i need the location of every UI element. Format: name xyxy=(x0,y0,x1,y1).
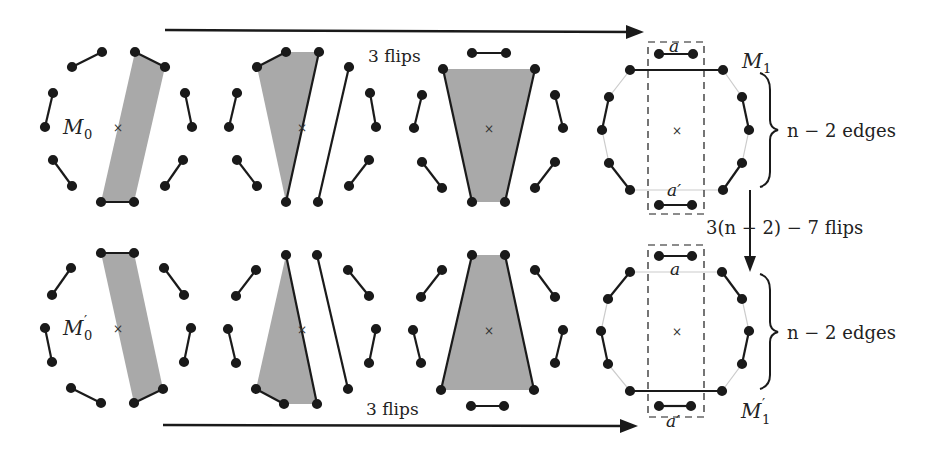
center-cross-icon: × xyxy=(484,122,494,136)
bottom-brace xyxy=(760,274,778,389)
flip-sequence-diagram: 3 flips × M 0 × xyxy=(0,0,945,455)
top-arrowhead-icon xyxy=(626,25,644,39)
shaded-quadrilateral xyxy=(101,253,163,403)
bottom-arrowhead-icon xyxy=(620,419,638,433)
top-brace xyxy=(760,73,778,187)
center-cross-icon: × xyxy=(297,121,307,135)
down-arrowhead-icon xyxy=(744,256,756,272)
center-cross-icon: × xyxy=(672,325,682,339)
edge-label-a-top: a xyxy=(669,36,679,56)
edge-label-a-prime-bottom: a′ xyxy=(666,411,680,431)
bottom-flip-arrow xyxy=(163,425,630,426)
m0-subscript: 0 xyxy=(84,127,92,142)
top-arrow-label: 3 flips xyxy=(368,46,421,66)
shaded-triangle xyxy=(257,52,319,202)
top-flip-arrow xyxy=(165,30,636,32)
edge-label-a-bottom: a xyxy=(670,259,680,279)
vertical-arrow-label: 3(n − 2) − 7 flips xyxy=(706,217,863,238)
m1-prime-subscript: 1 xyxy=(762,412,770,427)
m1-prime-label: M xyxy=(740,399,762,423)
edge-label-a-prime-top: a′ xyxy=(667,180,681,200)
shaded-triangle xyxy=(256,255,317,404)
center-cross-icon: × xyxy=(113,322,123,336)
m1-subscript: 1 xyxy=(763,61,771,76)
bottom-brace-label: n − 2 edges xyxy=(787,322,896,343)
m0-prime-subscript: 0 xyxy=(84,328,92,343)
m1-label: M xyxy=(741,49,763,73)
m0-prime-mark: ′ xyxy=(84,313,87,329)
m1-prime-mark: ′ xyxy=(762,396,765,412)
top-brace-label: n − 2 edges xyxy=(787,120,896,141)
center-cross-icon: × xyxy=(484,324,494,338)
center-cross-icon: × xyxy=(297,323,307,337)
bottom-arrow-label: 3 flips xyxy=(366,399,419,419)
shaded-quadrilateral xyxy=(101,52,165,202)
m0-label: M xyxy=(62,115,84,139)
center-cross-icon: × xyxy=(113,121,123,135)
center-cross-icon: × xyxy=(672,124,682,138)
m0-prime-label: M xyxy=(62,316,84,340)
